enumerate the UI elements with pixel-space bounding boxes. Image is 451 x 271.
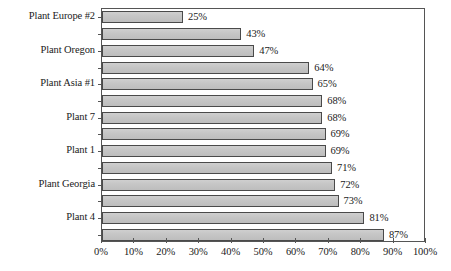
bar-value-label: 73% [344, 196, 363, 207]
y-axis-tick [98, 151, 102, 152]
y-axis-label: Plant Asia #1 [40, 78, 95, 89]
bar [102, 78, 313, 90]
y-axis-tick [98, 235, 102, 236]
x-axis-tick-label: 30% [189, 247, 208, 258]
x-axis-tick-label: 80% [351, 247, 370, 258]
bar-value-label: 71% [337, 163, 356, 174]
bar-row: 87% [102, 229, 424, 241]
x-axis-tick-label: 0% [94, 247, 108, 258]
x-axis-tick-label: 70% [318, 247, 337, 258]
bar [102, 45, 254, 57]
x-axis-tick-label: 10% [124, 247, 143, 258]
bar-row: 69% [102, 145, 424, 157]
y-axis-tick [98, 51, 102, 52]
y-axis-labels: Plant Europe #2Plant OregonPlant Asia #1… [0, 8, 99, 242]
bar-value-label: 87% [389, 229, 408, 240]
x-axis-tick-label: 20% [156, 247, 175, 258]
bar-row: 81% [102, 212, 424, 224]
bar-value-label: 65% [318, 79, 337, 90]
bar-row: 72% [102, 179, 424, 191]
bar-row: 73% [102, 195, 424, 207]
bar-value-label: 72% [340, 179, 359, 190]
bar-value-label: 69% [331, 146, 350, 157]
bar [102, 195, 339, 207]
y-axis-tick [98, 118, 102, 119]
bar [102, 145, 326, 157]
y-axis-tick [98, 17, 102, 18]
bar [102, 162, 332, 174]
x-axis-tick [425, 238, 426, 243]
bar-row: 68% [102, 112, 424, 124]
bar-value-label: 47% [259, 46, 278, 57]
y-axis-label: Plant 7 [66, 111, 95, 122]
bar-row: 68% [102, 95, 424, 107]
bar [102, 95, 322, 107]
x-axis-tick-label: 60% [286, 247, 305, 258]
bar-row: 64% [102, 62, 424, 74]
bar-value-label: 68% [327, 96, 346, 107]
y-axis-tick [98, 134, 102, 135]
y-axis-tick [98, 68, 102, 69]
bar [102, 11, 183, 23]
x-axis-tick-labels: 0%10%20%30%40%50%60%70%80%90%100% [101, 247, 425, 263]
y-axis-tick [98, 218, 102, 219]
bar [102, 62, 309, 74]
bar-value-label: 25% [188, 12, 207, 23]
y-axis-tick [98, 84, 102, 85]
horizontal-bar-chart: Plant Europe #2Plant OregonPlant Asia #1… [0, 0, 451, 271]
bar-row: 47% [102, 45, 424, 57]
bar-row: 25% [102, 11, 424, 23]
bar [102, 28, 241, 40]
bar-value-label: 43% [246, 29, 265, 40]
bar [102, 212, 364, 224]
bar-value-label: 69% [331, 129, 350, 140]
x-axis-tick-label: 100% [413, 247, 437, 258]
bar-row: 43% [102, 28, 424, 40]
bar-row: 65% [102, 78, 424, 90]
bar-value-label: 81% [369, 213, 388, 224]
bars-layer: 25%43%47%64%65%68%68%69%69%71%72%73%81%8… [102, 9, 424, 241]
bar-value-label: 68% [327, 112, 346, 123]
y-axis-label: Plant Europe #2 [29, 11, 95, 22]
x-axis-tick-label: 90% [383, 247, 402, 258]
bar-row: 71% [102, 162, 424, 174]
y-axis-tick [98, 34, 102, 35]
y-axis-label: Plant 4 [66, 212, 95, 223]
x-axis-tick-label: 40% [221, 247, 240, 258]
bar [102, 229, 384, 241]
y-axis-tick [98, 101, 102, 102]
x-axis-tick-label: 50% [254, 247, 273, 258]
bar-value-label: 64% [314, 62, 333, 73]
y-axis-tick [98, 201, 102, 202]
y-axis-tick [98, 185, 102, 186]
plot-area: 25%43%47%64%65%68%68%69%69%71%72%73%81%8… [101, 8, 425, 242]
bar [102, 128, 326, 140]
bar-row: 69% [102, 128, 424, 140]
y-axis-label: Plant Oregon [41, 45, 96, 56]
y-axis-label: Plant Georgia [38, 178, 95, 189]
bar [102, 112, 322, 124]
y-axis-label: Plant 1 [66, 145, 95, 156]
y-axis-tick [98, 168, 102, 169]
bar [102, 179, 335, 191]
